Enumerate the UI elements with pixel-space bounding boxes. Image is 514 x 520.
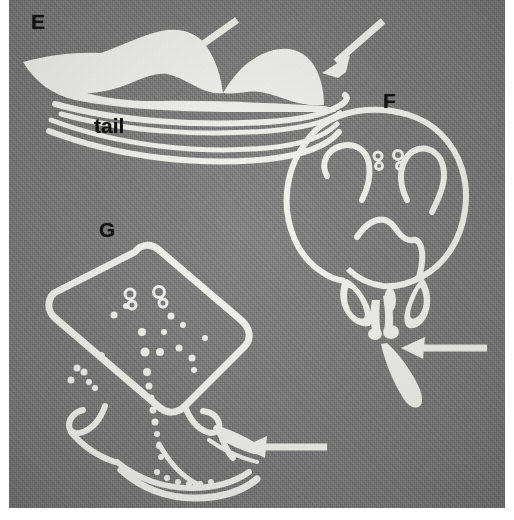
panel-f-internal-curve-right <box>401 149 444 212</box>
panel-label-g: G <box>99 219 115 240</box>
panel-f-clasper-node-upper <box>384 288 396 312</box>
photographic-field: E tail F G <box>9 0 505 508</box>
panel-g-spiracle-pair <box>125 287 167 310</box>
figure-plate: E tail F G <box>0 0 514 520</box>
panel-f-arrow <box>401 337 487 359</box>
panel-g-arrow <box>243 436 327 458</box>
panel-e-artwork <box>9 0 505 508</box>
panel-label-f: F <box>383 90 396 111</box>
panel-e-tail-label: tail <box>94 115 124 136</box>
panel-f-clasper-node-left <box>368 328 382 340</box>
panel-e-arrow-2 <box>322 21 383 78</box>
panel-f-disc-outline-left <box>287 144 345 281</box>
panel-f-internal-curve-left <box>324 145 369 200</box>
panel-e-mound-right <box>223 49 324 106</box>
panel-f-disc-outline <box>305 110 466 286</box>
panel-f-spot-pair <box>374 151 404 170</box>
panel-g-pelvic-fin-left <box>69 406 105 433</box>
panel-f-clasper-node-lower <box>383 325 399 339</box>
panel-label-e: E <box>31 11 45 32</box>
panel-g-pelvic-tip-left <box>71 432 115 462</box>
panel-f-mouth-arc <box>357 220 422 277</box>
